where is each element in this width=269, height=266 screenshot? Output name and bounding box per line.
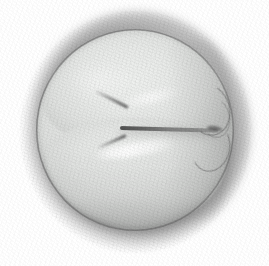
illustration-canvas <box>0 0 269 266</box>
highlight-upper-left <box>62 58 136 104</box>
furrow-junction-right <box>190 92 232 168</box>
